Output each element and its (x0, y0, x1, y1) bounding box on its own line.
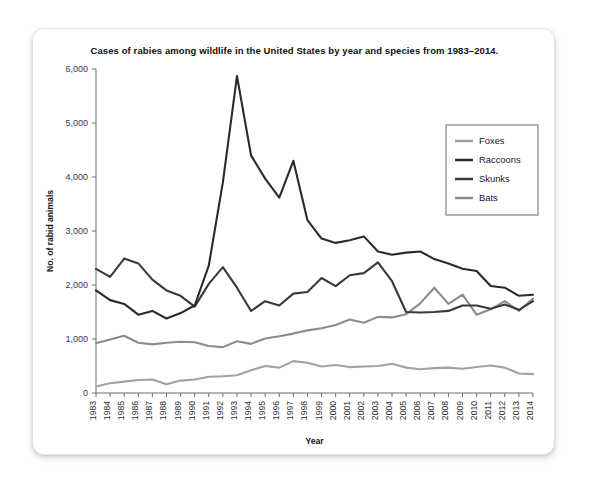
x-tick-label: 2013 (511, 401, 521, 420)
x-tick-label: 2007 (426, 401, 436, 420)
x-tick-label: 1993 (229, 401, 239, 420)
y-axis-title: No. of rabid animals (45, 190, 55, 272)
legend-label-raccoons: Raccoons (479, 154, 521, 165)
x-tick-label: 1985 (116, 401, 126, 420)
legend-label-foxes: Foxes (479, 135, 505, 146)
legend-label-skunks: Skunks (479, 173, 510, 184)
legend: FoxesRaccoonsSkunksBats (446, 125, 538, 215)
x-tick-label: 1983 (88, 401, 98, 420)
y-tick-label: 2,000 (65, 280, 88, 290)
x-tick-label: 2004 (384, 401, 394, 420)
x-tick-label: 2000 (328, 401, 338, 420)
series-line-foxes (96, 361, 533, 386)
x-tick-label: 2010 (469, 401, 479, 420)
x-tick-label: 1994 (243, 401, 253, 420)
legend-label-bats: Bats (479, 192, 498, 203)
x-tick-label: 1999 (314, 401, 324, 420)
line-chart: 01,0002,0003,0004,0005,0006,000 19831984… (33, 29, 555, 455)
x-tick-label: 1996 (271, 401, 281, 420)
series-layer (96, 76, 533, 387)
x-tick-label: 2005 (398, 401, 408, 420)
x-tick-label: 1995 (257, 401, 267, 420)
x-tick-label: 2014 (525, 401, 535, 420)
series-line-bats (96, 288, 533, 347)
x-tick-label: 2011 (483, 401, 493, 420)
x-tick-label: 1988 (158, 401, 168, 420)
y-tick-label: 0 (83, 388, 88, 398)
x-tick-label: 2012 (497, 401, 507, 420)
y-tick-label: 5,000 (65, 118, 88, 128)
y-tick-label: 3,000 (65, 226, 88, 236)
x-tick-label: 1997 (285, 401, 295, 420)
x-tick-label: 2009 (455, 401, 465, 420)
y-tick-label: 1,000 (65, 334, 88, 344)
screenshot-root: Cases of rabies among wildlife in the Un… (0, 0, 591, 490)
y-axis: 01,0002,0003,0004,0005,0006,000 (65, 64, 96, 398)
x-tick-label: 1987 (144, 401, 154, 420)
x-tick-label: 1986 (130, 401, 140, 420)
x-tick-label: 1998 (299, 401, 309, 420)
x-tick-label: 2003 (370, 401, 380, 420)
x-axis: 1983198419851986198719881989199019911992… (88, 393, 535, 420)
x-tick-label: 2008 (440, 401, 450, 420)
x-axis-title: Year (305, 436, 324, 446)
x-tick-label: 1991 (201, 401, 211, 420)
x-tick-label: 2002 (356, 401, 366, 420)
x-tick-label: 2001 (342, 401, 352, 420)
x-tick-label: 1990 (187, 401, 197, 420)
series-line-skunks (96, 259, 533, 313)
y-tick-label: 4,000 (65, 172, 88, 182)
x-tick-label: 2006 (412, 401, 422, 420)
x-tick-label: 1989 (173, 401, 183, 420)
y-tick-label: 6,000 (65, 64, 88, 74)
x-tick-label: 1992 (215, 401, 225, 420)
x-tick-label: 1984 (102, 401, 112, 420)
chart-card: Cases of rabies among wildlife in the Un… (32, 28, 555, 455)
